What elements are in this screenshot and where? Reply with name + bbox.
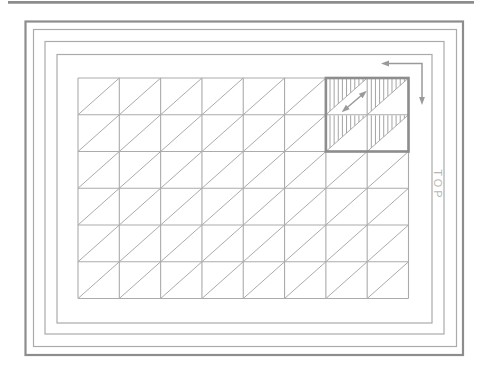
cell-diagonal [367,152,408,189]
cell-diagonal [285,188,326,225]
cell-diagonal [78,152,119,189]
cell-diagonal [285,115,326,152]
cell-diagonal [243,152,284,189]
cell-diagonal [243,115,284,152]
cell-diagonal [202,188,243,225]
cell-diagonal [285,152,326,189]
cell-diagonal [78,115,119,152]
cell-diagonal [78,78,119,115]
cell-diagonal [119,152,160,189]
cell-diagonal [243,188,284,225]
top-label: TOP [432,169,444,200]
diagonal-arrow-line [346,94,364,109]
cell-diagonal [78,262,119,299]
cell-diagonal [161,78,202,115]
shingle-grid [78,78,409,299]
cell-diagonal [326,152,367,189]
cell-diagonal [161,262,202,299]
cell-diagonal [285,262,326,299]
cell-diagonal [202,115,243,152]
cell-diagonal [119,262,160,299]
cell-diagonal [326,262,367,299]
cell-diagonal [119,225,160,262]
cell-diagonal [119,78,160,115]
cell-diagonal [119,115,160,152]
cell-diagonal [243,225,284,262]
corner-arrow-left-head [381,61,389,67]
cell-diagonal [78,225,119,262]
cell-diagonal [367,262,408,299]
cell-diagonal [367,188,408,225]
cell-diagonal [161,225,202,262]
cell-diagonal [243,78,284,115]
cell-diagonal [285,225,326,262]
cell-diagonal [202,225,243,262]
cell-diagonal [202,78,243,115]
cell-diagonal [78,188,119,225]
cell-diagonal [243,262,284,299]
cell-diagonal [326,188,367,225]
installation-diagram: TOP [0,0,485,377]
cell-diagonal [202,262,243,299]
cell-diagonal [202,152,243,189]
cell-diagonal [161,152,202,189]
cell-diagonal [285,78,326,115]
cell-diagonal [119,188,160,225]
cell-diagonal [161,188,202,225]
cell-diagonal [367,225,408,262]
corner-arrow-down-head [419,97,425,105]
cell-diagonal [161,115,202,152]
cell-diagonal [326,225,367,262]
